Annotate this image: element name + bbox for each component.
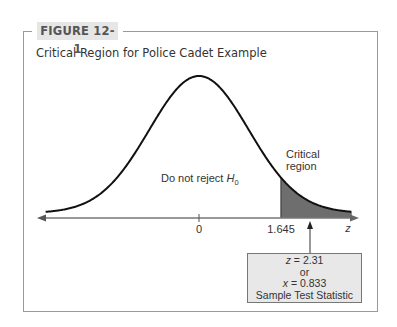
pointer-arrow-icon <box>307 221 313 229</box>
tick-label-zero: 0 <box>196 223 202 235</box>
axis-left-arrow-icon <box>37 215 46 222</box>
critical-region-label-line2: region <box>286 160 317 172</box>
axis-label-z: z <box>344 222 351 234</box>
do-not-reject-label: Do not reject H0 <box>161 172 239 187</box>
z-value-line: z = 2.31 <box>248 255 361 267</box>
axis-right-arrow-icon <box>350 215 359 222</box>
critical-region-label-line1: Critical <box>286 148 320 160</box>
normal-curve <box>46 76 352 212</box>
tick-label-critical: 1.645 <box>267 223 295 235</box>
critical-region-fill <box>281 178 352 218</box>
test-statistic-caption: Sample Test Statistic <box>248 290 361 302</box>
test-statistic-box: z = 2.31 or x = 0.833 Sample Test Statis… <box>247 253 362 303</box>
